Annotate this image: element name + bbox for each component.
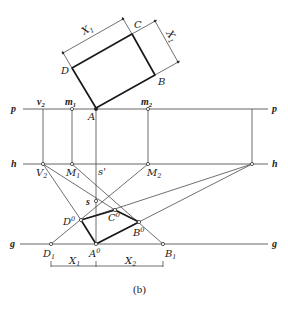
label-c: C bbox=[134, 19, 142, 30]
point-B1 bbox=[161, 242, 164, 245]
label-v2: v2 bbox=[37, 96, 45, 108]
point-A0 bbox=[94, 242, 97, 245]
label-d: D bbox=[60, 65, 69, 76]
label-h-right: h bbox=[272, 158, 278, 169]
dim-tick bbox=[154, 20, 156, 22]
label-A0: A0 bbox=[88, 247, 100, 259]
label-C0: C0 bbox=[108, 211, 120, 223]
label-s: s bbox=[85, 196, 90, 207]
label-m2: m2 bbox=[141, 96, 153, 108]
point-s bbox=[94, 199, 97, 202]
label-M2: M2 bbox=[146, 167, 161, 180]
label-p-left: p bbox=[10, 103, 16, 114]
figure-caption: (b) bbox=[133, 283, 146, 296]
label-V2: V2 bbox=[36, 167, 47, 180]
perspective-construction-diagram: X1 X1 C D B p p h h g g v2 m1 m2 A V2 M1… bbox=[0, 0, 288, 309]
point-B0 bbox=[137, 220, 140, 223]
dim-label-right: X1 bbox=[162, 28, 179, 45]
point-D1 bbox=[49, 242, 52, 245]
label-h-left: h bbox=[11, 158, 17, 169]
label-B1: B1 bbox=[164, 248, 177, 261]
label-m1: m1 bbox=[65, 96, 76, 108]
point-M1 bbox=[70, 162, 73, 165]
label-p-right: p bbox=[271, 103, 277, 114]
label-b: B bbox=[157, 76, 165, 87]
label-g-left: g bbox=[9, 238, 15, 249]
dimension-line-top bbox=[63, 19, 123, 53]
point-V2 bbox=[41, 162, 44, 165]
label-D1: D1 bbox=[42, 248, 55, 261]
dim-tick bbox=[62, 52, 64, 54]
label-g-right: g bbox=[271, 238, 277, 249]
point-vanishing-right bbox=[250, 162, 253, 165]
dim-label-top: X1 bbox=[79, 22, 96, 39]
label-s-prime: s' bbox=[98, 166, 106, 177]
point-D0 bbox=[79, 218, 82, 221]
extension-line-b bbox=[155, 61, 180, 75]
dim-tick bbox=[122, 18, 124, 20]
point-M2 bbox=[146, 162, 149, 165]
label-a: A bbox=[87, 111, 95, 122]
label-B0: B0 bbox=[132, 226, 145, 238]
dim-tick bbox=[177, 61, 179, 63]
